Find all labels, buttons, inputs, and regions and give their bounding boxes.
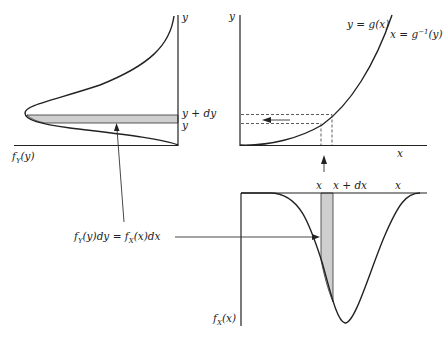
band-x-label: x [316,179,322,191]
g-inverse-label: x = g−1(y) [390,28,443,40]
left-arrow-to-y-band [262,117,290,123]
density-band-y [27,115,178,123]
equation-group: fY(y)dy = fX(x)dx [73,123,320,245]
arrowhead-up-icon [321,155,327,164]
y-axis-label-left: y [181,11,189,23]
band-upper-label: y + dy [181,107,217,119]
x-axis-label-bottom: x [395,179,401,191]
top-left-panel: y y + dy y fY(y) [11,11,217,165]
density-band-x [321,193,333,302]
fy-density-label: fY(y) [11,150,35,165]
g-curve-label: y = g(x) [346,18,389,30]
arrowhead-left-icon [262,117,271,123]
band-lower-label: y [181,119,189,131]
bottom-panel: x x + dx x fX(x) [212,179,427,327]
fy-density-curve [25,16,178,145]
g-transform-curve [240,15,392,145]
fx-density-label: fX(x) [212,312,236,327]
arrowhead-y-band-icon [114,123,120,131]
x-axis-label-top: x [397,147,403,159]
up-arrow-to-x-band [321,155,327,172]
density-transformation-diagram: y y + dy y fY(y) y x y = g(x) x = g−1(y) [0,0,445,337]
pointer-to-y-band [117,129,124,222]
arrowhead-x-band-icon [312,234,320,240]
y-axis-label-right: y [228,10,236,22]
top-right-panel: y x y = g(x) x = g−1(y) [228,10,443,159]
band-x-plus-dx-label: x + dx [333,179,367,191]
equation-label: fY(y)dy = fX(x)dx [73,230,160,245]
